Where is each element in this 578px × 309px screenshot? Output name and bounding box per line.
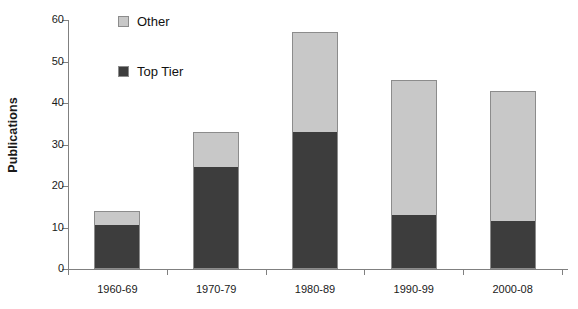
legend-item-other[interactable]: Other (118, 14, 170, 29)
legend-item-top-tier[interactable]: Top Tier (118, 64, 183, 79)
y-axis-line (68, 20, 69, 269)
chart-container: Publications 0102030405060 1960-691970-7… (0, 0, 578, 309)
x-tick-mark (167, 269, 168, 275)
legend-swatch-icon (118, 66, 129, 77)
y-axis-title: Publications (2, 0, 24, 269)
x-axis-label-1990-99: 1990-99 (394, 283, 434, 295)
y-axis-title-text: Publications (6, 97, 20, 173)
y-tick-label: 10 (52, 221, 64, 233)
bar-group[interactable] (391, 80, 437, 269)
bar-segment-other[interactable] (391, 80, 437, 215)
x-axis-label-1980-89: 1980-89 (295, 283, 335, 295)
bar-segment-other[interactable] (193, 132, 239, 167)
bar-segment-other[interactable] (94, 211, 140, 226)
y-tick-label: 0 (58, 262, 64, 274)
y-tick-label: 50 (52, 55, 64, 67)
y-tick-label: 40 (52, 96, 64, 108)
bar-segment-top-tier[interactable] (490, 221, 536, 269)
bar-segment-top-tier[interactable] (391, 215, 437, 269)
y-tick-label: 30 (52, 138, 64, 150)
legend-label: Other (137, 14, 170, 29)
y-tick-label: 20 (52, 179, 64, 191)
x-axis-label-1960-69: 1960-69 (97, 283, 137, 295)
x-tick-mark (364, 269, 365, 275)
bar-segment-top-tier[interactable] (292, 132, 338, 269)
legend-swatch-icon (118, 16, 129, 27)
x-tick-mark (266, 269, 267, 275)
bar-segment-other[interactable] (490, 91, 536, 222)
bar-group[interactable] (94, 211, 140, 269)
x-tick-mark (68, 269, 69, 275)
bar-group[interactable] (292, 32, 338, 269)
x-axis-label-2000-08: 2000-08 (492, 283, 532, 295)
bar-segment-top-tier[interactable] (94, 225, 140, 269)
bar-group[interactable] (490, 91, 536, 269)
bar-group[interactable] (193, 132, 239, 269)
y-tick-label: 60 (52, 13, 64, 25)
x-tick-mark (562, 269, 563, 275)
x-tick-mark (463, 269, 464, 275)
x-axis-label-1970-79: 1970-79 (196, 283, 236, 295)
x-axis-line (68, 269, 568, 270)
bar-segment-other[interactable] (292, 32, 338, 132)
plot-area: 0102030405060 (68, 20, 562, 269)
bar-segment-top-tier[interactable] (193, 167, 239, 269)
legend-label: Top Tier (137, 64, 183, 79)
